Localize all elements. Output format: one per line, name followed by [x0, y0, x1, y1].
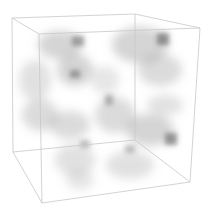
density-clouds [19, 27, 183, 190]
cube-volume [0, 0, 211, 219]
volume-render [0, 0, 211, 219]
